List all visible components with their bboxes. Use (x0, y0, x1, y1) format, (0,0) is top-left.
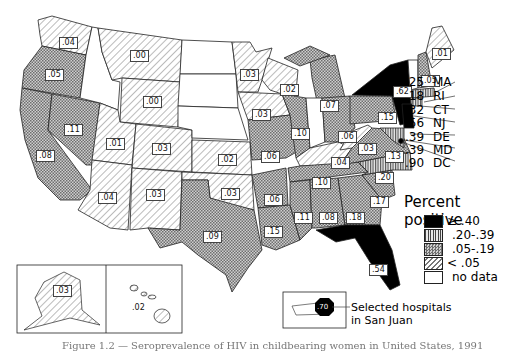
label-nc: .20 (375, 172, 394, 184)
label-fl: .54 (369, 264, 388, 276)
label-hi: .02 (130, 303, 147, 313)
label-il: .10 (291, 128, 310, 140)
pr-note: Selected hospitals in San Juan (351, 301, 452, 327)
label-pa: .15 (378, 112, 397, 124)
figure-caption: Figure 1.2 — Seroprevalence of HIV in ch… (62, 340, 483, 351)
label-or: .05 (45, 69, 64, 81)
label-ia: .03 (252, 109, 271, 121)
label-co: .03 (152, 143, 171, 155)
label-sc: .17 (370, 196, 389, 208)
label-mo: .06 (261, 151, 280, 163)
label-ok: .03 (221, 188, 240, 200)
label-ca: .08 (36, 150, 55, 162)
callout-ma: .25MA (405, 76, 452, 88)
legend-swatch-vertical (424, 229, 443, 242)
label-oh: .06 (338, 131, 357, 143)
state-fl (316, 225, 400, 290)
legend-swatch-crosshatch (424, 243, 443, 256)
label-ut: .01 (106, 138, 125, 150)
label-mi: .07 (320, 100, 339, 112)
label-tn: .10 (312, 177, 331, 189)
legend-swatch-white (424, 271, 443, 284)
label-ms: .11 (294, 212, 313, 224)
callout-de: .39DE (405, 131, 450, 143)
label-wi: .02 (280, 84, 299, 96)
label-wv: .03 (358, 143, 377, 155)
callout-ct: .32CT (405, 104, 449, 116)
label-ky: .04 (331, 157, 350, 169)
label-ak: .03 (53, 285, 72, 297)
label-al: .08 (319, 212, 338, 224)
legend-swatch-diagonal (424, 257, 443, 270)
callout-dc: .90DC (405, 157, 451, 169)
callout-ri: .18RI (405, 90, 445, 102)
state-dc (399, 139, 404, 144)
label-ga: .18 (346, 212, 365, 224)
label-nm: .03 (146, 189, 165, 201)
callout-nj: .56NJ (405, 117, 446, 129)
label-wa: .04 (59, 37, 78, 49)
label-ks: .02 (218, 154, 237, 166)
state-nd (180, 40, 236, 74)
label-pr: .70 (315, 302, 330, 312)
legend-swatch-solid (424, 215, 443, 228)
label-mt: .00 (130, 50, 149, 62)
callout-md: .39MD (405, 144, 453, 156)
label-az: .04 (98, 192, 117, 204)
state-me (426, 26, 454, 68)
label-nv: .11 (64, 124, 83, 136)
label-wy: .00 (143, 96, 162, 108)
label-me: .01 (432, 48, 451, 60)
label-va: .13 (385, 151, 404, 163)
label-ar: .06 (264, 194, 283, 206)
state-sd (178, 74, 238, 108)
label-la: .15 (264, 226, 283, 238)
label-tx: .09 (203, 231, 222, 243)
label-mn: .03 (240, 69, 259, 81)
